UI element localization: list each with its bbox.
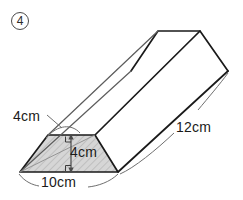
length-dimension-label: 12cm [176,120,211,134]
leader-arc-base-right [88,174,118,187]
base-dimension-label: 10cm [41,175,76,189]
leader-line-slant [47,115,62,128]
geometry-figure: 4 4cm 4cm 10cm 12cm [0,0,243,200]
item-number-label: 4 [11,12,29,30]
leader-arc-base-left [19,174,39,186]
slant-side-dimension-label: 4cm [13,109,40,123]
prism-drawing [0,0,243,200]
height-dimension-label: 4cm [70,145,97,159]
